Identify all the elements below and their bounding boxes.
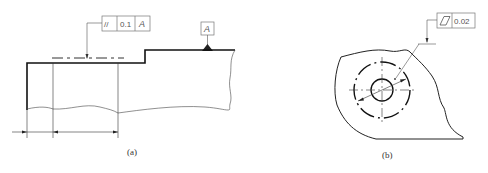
datum-label: A	[203, 24, 210, 34]
right-break-line	[228, 50, 235, 110]
tolerance-value: 0.1	[120, 20, 132, 29]
leader-line	[87, 23, 102, 58]
datum-a-symbol: A	[201, 22, 214, 51]
leader-arrowhead	[86, 54, 89, 59]
leader-dot	[394, 78, 396, 80]
leader-to-surface	[396, 44, 419, 78]
dim-arrow-left	[22, 131, 27, 134]
flatness-icon	[440, 17, 450, 26]
part-outline	[27, 50, 235, 110]
parallelism-feature-control-frame: // 0.1 A	[102, 16, 150, 31]
caption-b: (b)	[382, 150, 393, 160]
diameter-arrow-2	[400, 79, 406, 83]
dim-arrow-right	[113, 131, 118, 134]
figure-b: 0.02 (b)	[335, 13, 475, 160]
leader-arrowhead-b	[426, 38, 429, 43]
bottom-break-line	[27, 106, 228, 113]
parallelism-symbol: //	[104, 20, 109, 29]
dim-arrow-mid	[53, 131, 58, 134]
datum-reference: A	[138, 19, 145, 29]
figure-a: // 0.1 A A (a)	[12, 16, 235, 157]
caption-a: (a)	[127, 147, 137, 157]
flatness-feature-control-frame: 0.02	[437, 13, 475, 28]
diameter-arrow-1	[358, 98, 364, 102]
leader-line-b	[427, 20, 437, 42]
technical-drawing: // 0.1 A A (a)	[0, 0, 488, 173]
tolerance-value: 0.02	[454, 17, 470, 26]
